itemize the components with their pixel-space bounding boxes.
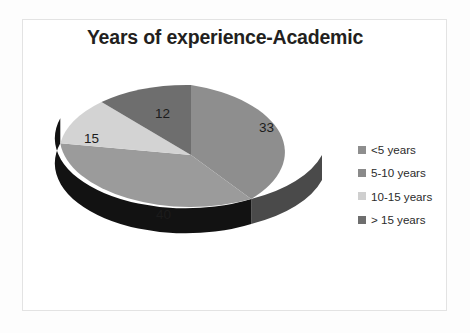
pie-chart-area: 33 40 15 12 [40,70,340,270]
legend-swatch-icon-lt5-years [358,146,366,154]
legend-label-gt15-years: > 15 years [371,214,425,226]
chart-legend: <5 years 5-10 years 10-15 years > 15 yea… [358,138,450,232]
pie-data-label-12: 12 [155,106,170,121]
legend-swatch-icon-gt15-years [358,216,366,224]
legend-label-10-15-years: 10-15 years [371,191,432,203]
pie-data-label-15: 15 [84,131,99,146]
legend-label-lt5-years: <5 years [371,144,416,156]
legend-item-10-15-years[interactable]: 10-15 years [358,185,450,208]
pie-chart-svg [40,70,340,270]
legend-label-5-10-years: 5-10 years [371,167,426,179]
legend-item-lt5-years[interactable]: <5 years [358,138,450,161]
legend-swatch-icon-10-15-years [358,192,366,200]
chart-title: Years of experience-Academic [40,26,410,49]
legend-item-gt15-years[interactable]: > 15 years [358,208,450,231]
legend-swatch-icon-5-10-years [358,169,366,177]
chart-figure: Years of experience-Academic 33 40 15 12 [0,0,470,333]
legend-item-5-10-years[interactable]: 5-10 years [358,161,450,184]
pie-data-label-40: 40 [156,207,171,222]
pie-data-label-33: 33 [259,120,274,135]
